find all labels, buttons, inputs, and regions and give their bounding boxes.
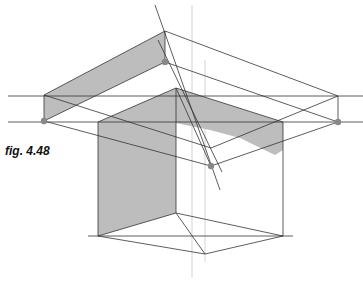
point-shadow (208, 163, 214, 169)
point-slab-bottom-top (162, 59, 168, 65)
point-slab-bottom-left (41, 118, 47, 124)
construction-lines (8, 5, 363, 254)
box-shaded-face (98, 88, 176, 236)
figure-caption: fig. 4.48 (5, 144, 50, 158)
point-right-bottom (335, 119, 341, 125)
perspective-diagram (0, 0, 363, 283)
